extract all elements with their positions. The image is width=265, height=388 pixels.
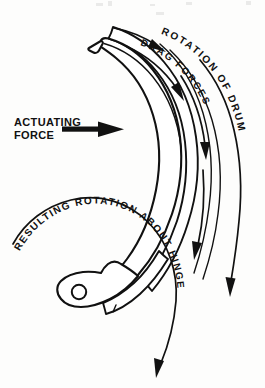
resulting-rotation-arrowhead xyxy=(154,358,164,378)
brake-shoe-diagram: ROTATION OF DRUM DRAG FORCES RESULTING R… xyxy=(0,0,265,388)
diagram-canvas: ROTATION OF DRUM DRAG FORCES RESULTING R… xyxy=(0,0,265,388)
drag-arrow-4-shaft xyxy=(198,170,204,245)
actuating-force-label: ACTUATING FORCE xyxy=(14,116,100,141)
actuator-tab xyxy=(88,41,103,53)
hinge-pivot-hole xyxy=(72,285,86,299)
drum-rotation-arrowhead xyxy=(226,277,236,297)
drag-arrow-3-head xyxy=(200,142,210,160)
